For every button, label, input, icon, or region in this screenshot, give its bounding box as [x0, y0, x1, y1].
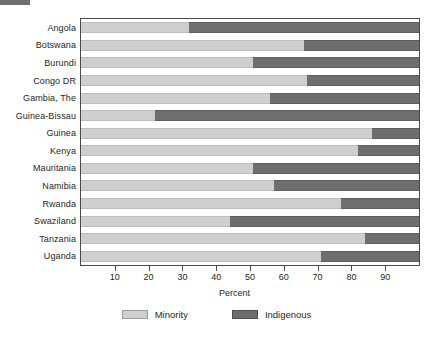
bar-segment-minority	[81, 145, 358, 156]
y-axis-label-angola: Angola	[0, 23, 76, 34]
y-axis-label-uganda: Uganda	[0, 251, 76, 262]
bar-row	[81, 145, 419, 156]
bar-segment-minority	[81, 216, 230, 227]
x-tick-70	[318, 266, 319, 271]
minority-swatch-icon	[122, 310, 148, 319]
bar-segment-indigenous	[270, 93, 419, 104]
x-tick-90	[385, 266, 386, 271]
bar-segment-indigenous	[304, 40, 419, 51]
x-axis-title-text: Percent	[219, 288, 250, 298]
bar-segment-indigenous	[341, 198, 419, 209]
bar-segment-minority	[81, 40, 304, 51]
bar-segment-indigenous	[253, 57, 419, 68]
bar-row	[81, 198, 419, 209]
bar-segment-minority	[81, 251, 321, 262]
bar-row	[81, 128, 419, 139]
x-tick-label-70: 70	[303, 272, 333, 283]
y-axis-label-rwanda: Rwanda	[0, 199, 76, 210]
x-axis-tick-labels: 102030405060708090	[0, 272, 433, 286]
x-axis-title: Percent	[0, 288, 433, 298]
bar-row	[81, 22, 419, 33]
bar-segment-minority	[81, 75, 307, 86]
x-tick-40	[216, 266, 217, 271]
bar-row	[81, 110, 419, 121]
y-axis-label-swaziland: Swaziland	[0, 216, 76, 227]
x-tick-label-80: 80	[336, 272, 366, 283]
y-axis-label-guinea: Guinea	[0, 128, 76, 139]
x-tick-label-30: 30	[167, 272, 197, 283]
indigenous-swatch-icon	[232, 310, 258, 319]
legend-label-indigenous: Indigenous	[265, 309, 311, 320]
bar-row	[81, 163, 419, 174]
bar-segment-minority	[81, 93, 270, 104]
bar-row	[81, 251, 419, 262]
y-axis-label-congo-dr: Congo DR	[0, 76, 76, 87]
legend-item-indigenous[interactable]: Indigenous	[232, 309, 311, 320]
bar-segment-indigenous	[372, 128, 419, 139]
x-tick-30	[182, 266, 183, 271]
bar-segment-minority	[81, 110, 155, 121]
bar-segment-minority	[81, 198, 341, 209]
scan-corner-mark	[0, 0, 30, 5]
bar-segment-minority	[81, 57, 253, 68]
bar-row	[81, 57, 419, 68]
x-tick-50	[250, 266, 251, 271]
bar-row	[81, 93, 419, 104]
bar-row	[81, 180, 419, 191]
y-axis-label-gambia-the: Gambia, The	[0, 93, 76, 104]
bar-segment-indigenous	[274, 180, 419, 191]
legend-label-minority: Minority	[155, 309, 188, 320]
bar-row	[81, 40, 419, 51]
x-tick-label-50: 50	[235, 272, 265, 283]
chart-figure: AngolaBotswanaBurundiCongo DRGambia, The…	[0, 0, 433, 339]
x-tick-label-90: 90	[370, 272, 400, 283]
x-tick-label-20: 20	[134, 272, 164, 283]
bar-row	[81, 216, 419, 227]
bar-row	[81, 75, 419, 86]
y-axis-label-burundi: Burundi	[0, 58, 76, 69]
bar-segment-minority	[81, 233, 365, 244]
x-tick-10	[115, 266, 116, 271]
x-tick-60	[284, 266, 285, 271]
x-tick-label-40: 40	[201, 272, 231, 283]
bar-segment-minority	[81, 163, 253, 174]
bar-segment-indigenous	[155, 110, 419, 121]
bar-segment-minority	[81, 180, 274, 191]
bar-segment-indigenous	[365, 233, 419, 244]
bar-segment-indigenous	[358, 145, 419, 156]
legend-item-minority[interactable]: Minority	[122, 309, 188, 320]
y-axis-category-labels: AngolaBotswanaBurundiCongo DRGambia, The…	[0, 19, 76, 265]
y-axis-label-namibia: Namibia	[0, 181, 76, 192]
x-tick-label-60: 60	[269, 272, 299, 283]
bar-segment-indigenous	[230, 216, 419, 227]
y-axis-label-guinea-bissau: Guinea-Bissau	[0, 111, 76, 122]
y-axis-label-tanzania: Tanzania	[0, 234, 76, 245]
bar-segment-minority	[81, 22, 189, 33]
x-tick-80	[351, 266, 352, 271]
bar-segment-indigenous	[307, 75, 419, 86]
bar-segment-minority	[81, 128, 372, 139]
y-axis-label-kenya: Kenya	[0, 146, 76, 157]
bar-segment-indigenous	[253, 163, 419, 174]
bar-row	[81, 233, 419, 244]
chart-legend: Minority Indigenous	[0, 306, 433, 322]
y-axis-label-botswana: Botswana	[0, 40, 76, 51]
bar-segment-indigenous	[321, 251, 419, 262]
y-axis-label-mauritania: Mauritania	[0, 163, 76, 174]
x-tick-20	[149, 266, 150, 271]
bar-segment-indigenous	[189, 22, 419, 33]
x-tick-label-10: 10	[100, 272, 130, 283]
bars-layer	[81, 19, 419, 265]
